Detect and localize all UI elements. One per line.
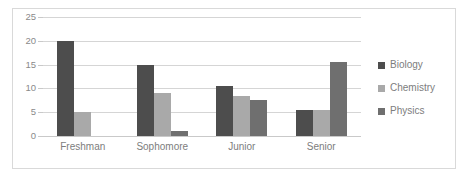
bar-group [123, 17, 203, 136]
legend-label-chemistry: Chemistry [390, 82, 435, 94]
bar-group [282, 17, 362, 136]
x-axis-label-senior: Senior [282, 140, 362, 153]
legend-swatch-biology [378, 62, 385, 69]
chart-legend: BiologyChemistryPhysics [378, 56, 454, 125]
x-axis: FreshmanSophomoreJuniorSenior [43, 140, 361, 156]
bar-chart-widget: 0510152025 FreshmanSophomoreJuniorSenior… [0, 0, 469, 185]
bar-chemistry-sophomore[interactable] [154, 93, 171, 136]
bar-group [43, 17, 123, 136]
legend-item-chemistry[interactable]: Chemistry [378, 79, 454, 97]
bar-physics-senior[interactable] [330, 62, 347, 136]
legend-label-biology: Biology [390, 59, 423, 71]
y-axis-tick-label: 5 [31, 107, 36, 117]
bar-biology-junior[interactable] [216, 86, 233, 136]
y-axis-tick-label: 0 [31, 131, 36, 141]
y-axis-tick-label: 20 [25, 36, 36, 46]
y-axis-tick-label: 25 [25, 12, 36, 22]
legend-label-physics: Physics [390, 105, 424, 117]
legend-swatch-physics [378, 108, 385, 115]
plot-area [43, 17, 361, 136]
bar-chemistry-senior[interactable] [313, 110, 330, 136]
bar-group [202, 17, 282, 136]
x-axis-label-sophomore: Sophomore [123, 140, 203, 153]
bar-physics-junior[interactable] [250, 100, 267, 136]
y-axis-tick-label: 15 [25, 60, 36, 70]
x-axis-line [43, 136, 361, 137]
x-axis-label-freshman: Freshman [43, 140, 123, 153]
y-axis-tick-label: 10 [25, 83, 36, 93]
bar-chemistry-junior[interactable] [233, 96, 250, 136]
legend-swatch-chemistry [378, 85, 385, 92]
bar-chemistry-freshman[interactable] [74, 112, 91, 136]
bar-biology-sophomore[interactable] [137, 65, 154, 136]
legend-item-biology[interactable]: Biology [378, 56, 454, 74]
x-axis-label-junior: Junior [202, 140, 282, 153]
bar-biology-senior[interactable] [296, 110, 313, 136]
legend-item-physics[interactable]: Physics [378, 102, 454, 120]
bar-biology-freshman[interactable] [57, 41, 74, 136]
y-axis: 0510152025 [0, 17, 36, 136]
